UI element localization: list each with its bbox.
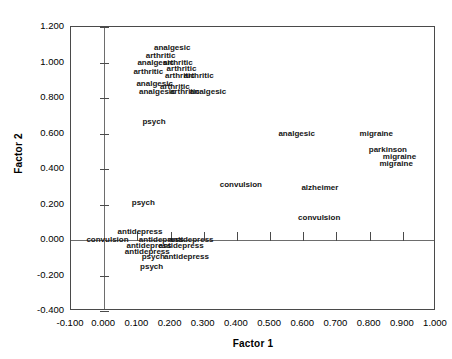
x-zero-axis-line <box>104 27 105 309</box>
data-point-label: arthritic <box>133 67 163 76</box>
y-tick-label: 1.000 <box>12 57 64 67</box>
data-point-label: psych <box>132 198 155 207</box>
y-tick-label: 0.400 <box>12 163 64 173</box>
y-tick-label: 1.200 <box>12 21 64 31</box>
y-tick-label: 0.200 <box>12 199 64 209</box>
data-point-label: alzheimer <box>301 182 338 191</box>
x-tick-mark <box>237 232 238 241</box>
data-point-label: migraine <box>360 128 393 137</box>
y-tick-mark <box>100 276 109 277</box>
data-point-label: psych <box>142 252 165 261</box>
plot-frame: analgesicarthriticanalgesicarthriticarth… <box>70 26 435 310</box>
data-point-label: psych <box>142 116 165 125</box>
y-tick-mark <box>100 134 109 135</box>
data-point-label: antidepress <box>164 252 209 261</box>
x-axis-title: Factor 1 <box>70 338 436 349</box>
x-tick-mark <box>370 232 371 241</box>
y-tick-mark <box>100 98 109 99</box>
y-tick-label: -0.200 <box>12 270 64 280</box>
y-tick-label: 0.800 <box>12 92 64 102</box>
y-tick-label: -0.400 <box>12 305 64 315</box>
data-point-label: convulsion <box>220 179 262 188</box>
data-point-label: analgesic <box>190 87 226 96</box>
data-point-label: psych <box>140 262 163 271</box>
y-tick-mark <box>100 169 109 170</box>
x-tick-mark <box>336 232 337 241</box>
y-tick-mark <box>100 63 109 64</box>
data-point-label: convulsion <box>86 235 128 244</box>
y-tick-label: 0.600 <box>12 128 64 138</box>
x-tick-mark <box>303 232 304 241</box>
data-point-label: arthritic <box>184 70 214 79</box>
data-point-label: convulsion <box>298 213 340 222</box>
data-point-label: analgesic <box>278 128 314 137</box>
x-tick-mark <box>270 232 271 241</box>
y-axis-title: Factor 2 <box>13 104 24 204</box>
y-tick-mark <box>100 311 109 312</box>
scatter-plot: Factor 2 analgesicarthriticanalgesicarth… <box>0 0 452 359</box>
y-tick-mark <box>100 27 109 28</box>
y-tick-mark <box>100 205 109 206</box>
x-tick-label: 1.000 <box>412 318 452 328</box>
y-tick-label: 0.000 <box>12 234 64 244</box>
data-point-label: migraine <box>380 158 413 167</box>
x-tick-mark <box>403 232 404 241</box>
